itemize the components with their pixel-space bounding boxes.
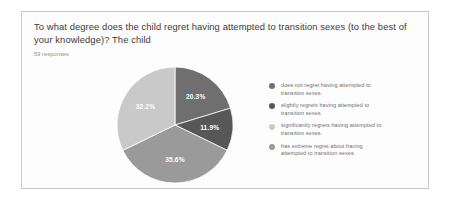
legend-item-label-line1: does not regret having attempted to	[281, 82, 419, 90]
legend-bullet-icon	[269, 103, 275, 109]
legend-item-label-line1: has extreme regret about having	[281, 143, 419, 151]
question-title: To what degree does the child regret hav…	[34, 21, 412, 46]
legend-item-label-line2: attempted to transition sexes.	[281, 150, 419, 158]
legend-bullet-icon	[269, 83, 275, 89]
legend-item-label-line2: transition sexes.	[281, 90, 419, 98]
legend-item-label-line1: significantly regrets having attempted t…	[281, 122, 419, 130]
legend-item[interactable]: does not regret having attempted to tran…	[269, 82, 419, 97]
pie-slice-label-0: 20.3%	[186, 93, 205, 100]
chart-area: 20.3% 11.9% 35.6% 32.2% does not regret …	[22, 60, 428, 188]
legend-bullet-icon	[269, 144, 275, 150]
legend-bullet-icon	[269, 124, 275, 130]
legend-item-label-line2: transition sexes.	[281, 130, 419, 138]
pie-slice-label-3: 32.2%	[136, 103, 155, 110]
legend-item[interactable]: slightly regrets having attempted to tra…	[269, 102, 419, 117]
legend-item-label-line2: transition sexes.	[281, 110, 419, 118]
pie-slice-label-1: 11.9%	[200, 124, 219, 131]
response-count-label: 59 responses	[34, 50, 69, 58]
chart-legend: does not regret having attempted to tran…	[269, 82, 419, 163]
page-root: To what degree does the child regret hav…	[0, 0, 451, 211]
legend-item[interactable]: has extreme regret about having attempte…	[269, 143, 419, 158]
legend-item[interactable]: significantly regrets having attempted t…	[269, 122, 419, 137]
survey-result-card: To what degree does the child regret hav…	[21, 11, 429, 189]
legend-item-label-line1: slightly regrets having attempted to	[281, 102, 419, 110]
pie-slice-label-2: 35.6%	[165, 156, 184, 163]
pie-chart: 20.3% 11.9% 35.6% 32.2%	[116, 66, 234, 184]
pie-chart-svg: 20.3% 11.9% 35.6% 32.2%	[116, 66, 234, 184]
